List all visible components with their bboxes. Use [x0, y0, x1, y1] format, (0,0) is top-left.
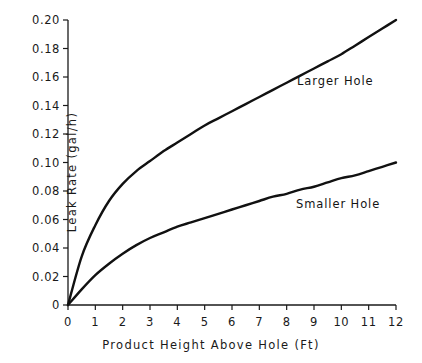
- plot-area: [0, 0, 422, 363]
- y-tick-label: 0.12: [8, 127, 60, 141]
- x-axis-title: Product Height Above Hole (Ft): [102, 338, 319, 352]
- x-tick-label: 8: [283, 315, 291, 329]
- x-tick-label: 7: [255, 315, 263, 329]
- y-tick-label: 0: [8, 298, 60, 312]
- series-label-larger-hole: Larger Hole: [297, 74, 374, 88]
- y-tick-label: 0.18: [8, 42, 60, 56]
- y-tick-label: 0.14: [8, 99, 60, 113]
- y-axis-title: Leak Rate (gal/h): [65, 112, 79, 232]
- x-tick-label: 10: [333, 315, 349, 329]
- x-tick-label: 0: [64, 315, 72, 329]
- y-tick-label: 0.02: [8, 270, 60, 284]
- y-tick-label: 0.16: [8, 70, 60, 84]
- x-tick-label: 3: [146, 315, 154, 329]
- x-axis-ticks: [68, 305, 396, 310]
- x-tick-label: 4: [173, 315, 181, 329]
- x-tick-label: 12: [388, 315, 404, 329]
- x-tick-label: 1: [91, 315, 99, 329]
- x-tick-label: 11: [361, 315, 377, 329]
- y-tick-label: 0.06: [8, 213, 60, 227]
- series-curve-smaller-hole: [68, 163, 396, 306]
- y-tick-label: 0.04: [8, 241, 60, 255]
- x-tick-label: 6: [228, 315, 236, 329]
- series-curve-larger-hole: [68, 20, 396, 305]
- y-tick-label: 0.20: [8, 13, 60, 27]
- y-tick-label: 0.10: [8, 156, 60, 170]
- axis-lines: [68, 20, 396, 305]
- series-label-smaller-hole: Smaller Hole: [296, 197, 380, 211]
- x-tick-label: 5: [201, 315, 209, 329]
- x-tick-label: 9: [310, 315, 318, 329]
- x-tick-label: 2: [119, 315, 127, 329]
- data-series-group: [68, 20, 396, 305]
- y-tick-label: 0.08: [8, 184, 60, 198]
- chart-figure: 00.020.040.060.080.100.120.140.160.180.2…: [0, 0, 422, 363]
